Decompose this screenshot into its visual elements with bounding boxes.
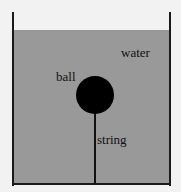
string (94, 112, 96, 184)
ball (76, 76, 114, 114)
container-right-wall (169, 12, 171, 186)
water-label: water (121, 46, 150, 59)
ball-label: ball (56, 70, 76, 83)
string-label: string (97, 133, 127, 146)
container-bottom (12, 183, 171, 185)
container-left-wall (12, 12, 14, 186)
